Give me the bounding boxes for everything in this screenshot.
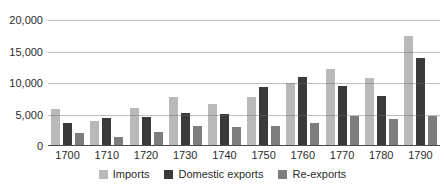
bar-1750-domestic-exports — [259, 87, 268, 146]
bar-1750-imports — [247, 97, 256, 146]
y-axis-tick-label: 20,000 — [0, 14, 43, 26]
x-axis-tick-label: 1780 — [362, 149, 401, 161]
bar-1760-re-exports — [310, 123, 319, 146]
gridline-10000 — [48, 83, 440, 84]
bar-1790-domestic-exports — [416, 58, 425, 146]
gridline-15000 — [48, 52, 440, 53]
x-axis-tick-label: 1750 — [244, 149, 283, 161]
y-axis-tick-label: 0 — [0, 140, 43, 152]
bar-1700-domestic-exports — [63, 123, 72, 146]
bar-1780-imports — [365, 78, 374, 146]
bar-1730-re-exports — [193, 126, 202, 146]
legend-item-domestic-exports: Domestic exports — [164, 168, 263, 180]
x-axis-line — [48, 145, 440, 146]
bar-1730-imports — [169, 97, 178, 146]
bar-1720-domestic-exports — [142, 117, 151, 146]
x-axis-tick-label: 1730 — [166, 149, 205, 161]
imports-swatch-icon — [99, 170, 108, 179]
bar-1790-re-exports — [428, 116, 437, 146]
bar-1740-domestic-exports — [220, 114, 229, 146]
bar-1780-re-exports — [389, 119, 398, 146]
bar-1770-re-exports — [350, 116, 359, 146]
bar-1720-re-exports — [154, 132, 163, 146]
x-axis-tick-label: 1710 — [87, 149, 126, 161]
x-axis-tick-label: 1740 — [205, 149, 244, 161]
x-axis-tick-label: 1760 — [283, 149, 322, 161]
gridline-5000 — [48, 115, 440, 116]
domestic-exports-swatch-icon — [164, 170, 173, 179]
legend-item-re-exports: Re-exports — [278, 168, 346, 180]
y-axis-tick-label: 15,000 — [0, 46, 43, 58]
chart-legend: Imports Domestic exports Re-exports — [0, 168, 445, 180]
x-axis-tick-label: 1790 — [401, 149, 440, 161]
y-axis-tick-label: 5,000 — [0, 109, 43, 121]
bar-1750-re-exports — [271, 126, 280, 146]
x-axis-tick-labels: 1700171017201730174017501760177017801790 — [48, 149, 440, 161]
x-axis-tick-label: 1720 — [126, 149, 165, 161]
y-axis-tick-label: 10,000 — [0, 77, 43, 89]
bar-1730-domestic-exports — [181, 113, 190, 146]
bar-1760-domestic-exports — [298, 77, 307, 146]
bar-1740-re-exports — [232, 127, 241, 146]
x-axis-tick-label: 1700 — [48, 149, 87, 161]
legend-item-imports: Imports — [99, 168, 150, 180]
bar-1780-domestic-exports — [377, 96, 386, 146]
bar-1710-imports — [90, 121, 99, 146]
bar-1770-domestic-exports — [338, 86, 347, 146]
bar-1720-imports — [130, 108, 139, 146]
legend-label-imports: Imports — [113, 168, 150, 180]
bar-1740-imports — [208, 104, 217, 146]
legend-label-domestic-exports: Domestic exports — [178, 168, 263, 180]
legend-label-re-exports: Re-exports — [292, 168, 346, 180]
trade-bar-chart: 1700171017201730174017501760177017801790… — [0, 0, 445, 190]
x-axis-tick-label: 1770 — [322, 149, 361, 161]
bar-1710-domestic-exports — [102, 118, 111, 146]
plot-area — [48, 20, 440, 146]
gridline-20000 — [48, 20, 440, 21]
bar-1770-imports — [326, 69, 335, 146]
re-exports-swatch-icon — [278, 170, 287, 179]
